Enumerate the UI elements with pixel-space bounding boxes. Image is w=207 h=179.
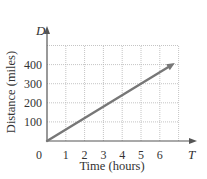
distance-time-chart: 123456100200300400 D T 0 Time (hours) Di… bbox=[0, 0, 207, 179]
y-tick-label: 200 bbox=[24, 96, 42, 110]
x-tick-label: 6 bbox=[157, 148, 163, 162]
x-axis-arrow-icon bbox=[189, 138, 197, 144]
data-line bbox=[47, 67, 168, 141]
x-axis-label: Time (hours) bbox=[79, 159, 144, 173]
y-tick-label: 400 bbox=[24, 58, 42, 72]
y-tick-label: 300 bbox=[24, 77, 42, 91]
x-tick-label: 1 bbox=[63, 148, 69, 162]
origin-label: 0 bbox=[36, 148, 42, 162]
tick-labels: 123456100200300400 bbox=[24, 58, 163, 162]
y-axis-variable: D bbox=[35, 23, 46, 38]
x-axis-variable: T bbox=[188, 147, 196, 162]
grid-lines bbox=[47, 46, 179, 142]
y-tick-label: 100 bbox=[24, 115, 42, 129]
axes bbox=[44, 26, 197, 144]
y-axis-label: Distance (miles) bbox=[4, 51, 18, 133]
